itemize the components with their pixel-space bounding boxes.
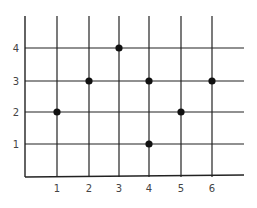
data-point <box>145 140 152 147</box>
x-tick-label: 1 <box>54 183 60 194</box>
x-tick-labels: 123456 <box>54 183 215 194</box>
data-point <box>208 77 215 84</box>
y-tick-label: 3 <box>13 76 19 87</box>
y-tick-labels: 1234 <box>13 43 19 150</box>
data-points <box>53 44 215 147</box>
x-tick-label: 6 <box>209 183 215 194</box>
x-tick-label: 5 <box>178 183 184 194</box>
y-tick-label: 4 <box>13 43 19 54</box>
scatter-chart: 123456 1234 <box>0 0 257 208</box>
data-point <box>115 44 122 51</box>
y-tick-label: 1 <box>13 139 19 150</box>
axes <box>25 16 244 177</box>
data-point <box>85 77 92 84</box>
data-point <box>145 77 152 84</box>
x-tick-label: 4 <box>146 183 152 194</box>
x-tick-label: 2 <box>86 183 92 194</box>
x-tick-label: 3 <box>116 183 122 194</box>
y-tick-label: 2 <box>13 107 19 118</box>
data-point <box>53 108 60 115</box>
x-axis <box>25 175 244 177</box>
grid-lines <box>25 16 244 177</box>
data-point <box>177 108 184 115</box>
